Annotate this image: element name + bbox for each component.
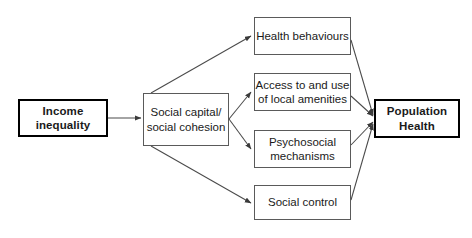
node-psychosocial-mechanisms[interactable]: Psychosocial mechanisms bbox=[254, 130, 351, 168]
node-health-behaviours-label: Health behaviours bbox=[256, 29, 349, 43]
node-income-inequality-label: Income inequality bbox=[36, 104, 91, 132]
node-population-health[interactable]: Population Health bbox=[374, 99, 460, 138]
node-social-capital[interactable]: Social capital/ social cohesion bbox=[143, 93, 229, 146]
edge-social-capital-to-psychosocial-mechanisms bbox=[229, 119, 251, 149]
node-social-control[interactable]: Social control bbox=[254, 185, 351, 220]
edge-social-capital-to-health-behaviours bbox=[151, 36, 251, 93]
node-access-local-amenities[interactable]: Access to and use of local amenities bbox=[254, 73, 351, 111]
edge-psychosocial-mechanisms-to-population-health bbox=[351, 122, 373, 145]
diagram-canvas: Income inequality Social capital/ social… bbox=[0, 0, 472, 238]
node-population-health-label: Population Health bbox=[387, 104, 447, 132]
edge-health-behaviours-to-population-health bbox=[351, 40, 373, 115]
edge-social-control-to-population-health bbox=[351, 124, 373, 200]
node-social-capital-label: Social capital/ social cohesion bbox=[147, 105, 226, 133]
node-social-control-label: Social control bbox=[268, 195, 337, 209]
node-health-behaviours[interactable]: Health behaviours bbox=[254, 17, 351, 55]
node-access-local-amenities-label: Access to and use of local amenities bbox=[256, 78, 350, 106]
edge-access-local-amenities-to-population-health bbox=[351, 96, 373, 116]
node-psychosocial-mechanisms-label: Psychosocial mechanisms bbox=[269, 135, 336, 163]
edge-social-capital-to-access-local-amenities bbox=[229, 92, 251, 119]
edge-social-capital-to-social-control bbox=[151, 146, 251, 203]
node-income-inequality[interactable]: Income inequality bbox=[18, 99, 108, 137]
